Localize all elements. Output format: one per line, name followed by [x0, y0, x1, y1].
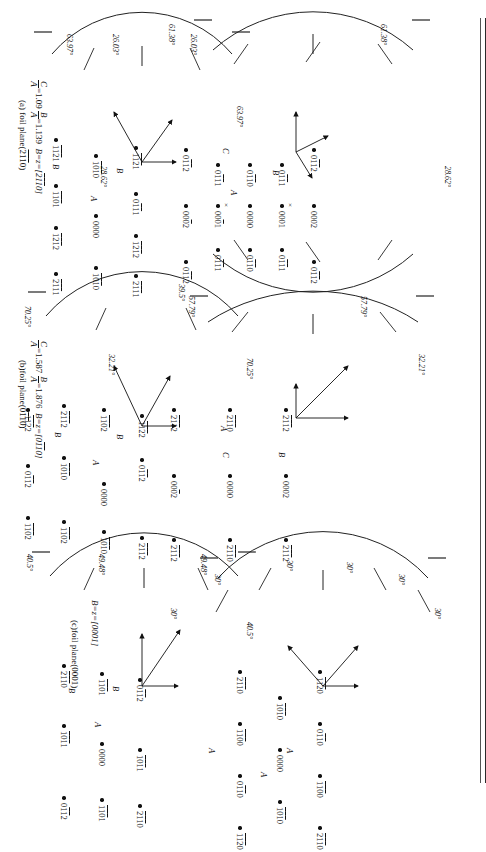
angle-label: 28.62° [443, 166, 452, 187]
spot-label: 0111 [214, 170, 223, 186]
angle-label: 30° [169, 608, 178, 619]
diffraction-spot [54, 272, 57, 275]
spot-label: 2110 [236, 677, 245, 694]
diffraction-spot [26, 408, 29, 411]
spot-label: 0111 [214, 255, 223, 271]
vector-label-a: A [208, 748, 217, 753]
diffraction-spot [172, 474, 175, 477]
angle-label: 61.38° [379, 24, 388, 45]
vector-label-b: B [112, 686, 121, 691]
diffraction-spot [62, 724, 65, 727]
spot-label: 1121 [52, 145, 61, 162]
vector-label-a: A [220, 426, 229, 431]
diffraction-spot [238, 670, 241, 673]
vector-label-b: B [68, 688, 77, 693]
vector-label-b: B [116, 168, 125, 173]
diffraction-spot [62, 520, 65, 523]
spot-label: 1010 [276, 703, 285, 720]
vector-label-c: C [222, 148, 231, 154]
spot-label: 2112 [170, 415, 179, 432]
spot-label: 1102 [24, 523, 33, 540]
diffraction-spot [284, 538, 287, 541]
diffraction-spot [312, 260, 315, 263]
spot-label: 0110 [246, 255, 255, 272]
panel-e-arcs [18, 300, 228, 550]
angle-label: 30° [285, 560, 294, 571]
diffraction-spot [62, 664, 65, 667]
diffraction-spot [280, 204, 283, 207]
panel-caption-ratios: CA=1.587 BA=1.876 B=z=[0110] [28, 340, 48, 458]
spot-label: 0000 [226, 481, 235, 498]
spot-label: 0002 [282, 481, 291, 498]
diffraction-spot [26, 464, 29, 467]
angle-label: 32.21° [417, 354, 426, 375]
figure-page: 01120002011201110001×0111011000000110011… [0, 0, 486, 852]
angle-label: 40.5° [245, 622, 254, 639]
diffraction-spot [138, 748, 141, 751]
spot-label: 1010 [276, 807, 285, 824]
panel-caption-ratios: CA=1.09 BA=1.139 B=z=[2110] [28, 80, 48, 194]
spot-label: 2111 [132, 281, 141, 297]
vector-label-a: A [92, 460, 101, 465]
spot-label: 1010 [60, 463, 69, 480]
angle-label: 57.79° [359, 296, 368, 317]
spot-label: 1010 [92, 273, 101, 290]
vector-label-b: B [272, 170, 281, 175]
diffraction-spot [100, 742, 103, 745]
diffraction-spot [184, 204, 187, 207]
diffraction-spot [134, 234, 137, 237]
spot-label: 1010 [92, 161, 101, 178]
diffraction-spot [134, 146, 137, 149]
diffraction-spot [238, 722, 241, 725]
diffraction-spot [54, 138, 57, 141]
diffraction-spot [278, 696, 281, 699]
diffraction-spot [318, 826, 321, 829]
spot-label: 1121 [132, 153, 141, 170]
angle-label: 39.5° [177, 284, 186, 301]
diffraction-spot [280, 248, 283, 251]
spot-label: 0000 [98, 749, 107, 766]
spot-label: 1011 [136, 755, 145, 772]
diffraction-spot [238, 826, 241, 829]
diffraction-spot [284, 474, 287, 477]
vector-label-c: C [222, 452, 231, 458]
diffraction-spot [216, 204, 219, 207]
spot-label: 2112 [282, 415, 291, 432]
diffraction-spot [216, 163, 219, 166]
spot-label: 0001 [278, 211, 287, 228]
diffraction-spot [184, 260, 187, 263]
x-marker: × [286, 203, 293, 207]
spot-label: 2111 [52, 279, 61, 295]
spot-label: 1100 [316, 781, 325, 798]
spot-label: 2110 [226, 545, 235, 562]
spot-label: 1212 [132, 241, 141, 258]
diffraction-spot [62, 796, 65, 799]
diffraction-spot [318, 774, 321, 777]
diffraction-spot [94, 266, 97, 269]
spot-label: 2112 [138, 543, 147, 560]
vector-label-b: B [52, 164, 61, 169]
spot-label: 1101 [98, 679, 107, 696]
diffraction-spot [102, 530, 105, 533]
spot-label: 0110 [236, 781, 245, 798]
spot-label: 0000 [276, 755, 285, 772]
vector-label-b: B [278, 452, 287, 457]
diffraction-spot [318, 722, 321, 725]
spot-label: 2110 [60, 671, 69, 688]
angle-label: 30° [345, 562, 354, 573]
spot-label: 0111 [132, 199, 141, 215]
diffraction-spot [62, 456, 65, 459]
diffraction-spot [284, 408, 287, 411]
spot-label: 1011 [60, 731, 69, 748]
diffraction-spot [102, 482, 105, 485]
diffraction-spot [26, 516, 29, 519]
angle-label: 30° [433, 608, 442, 619]
diffraction-spot [278, 748, 281, 751]
diffraction-spot [140, 458, 143, 461]
diffraction-spot [172, 408, 175, 411]
panel-f-arcs [18, 560, 228, 810]
diffraction-spot [134, 274, 137, 277]
vector-label-a: A [286, 748, 295, 753]
diffraction-spot [62, 404, 65, 407]
angle-label: 70.25° [23, 306, 32, 327]
